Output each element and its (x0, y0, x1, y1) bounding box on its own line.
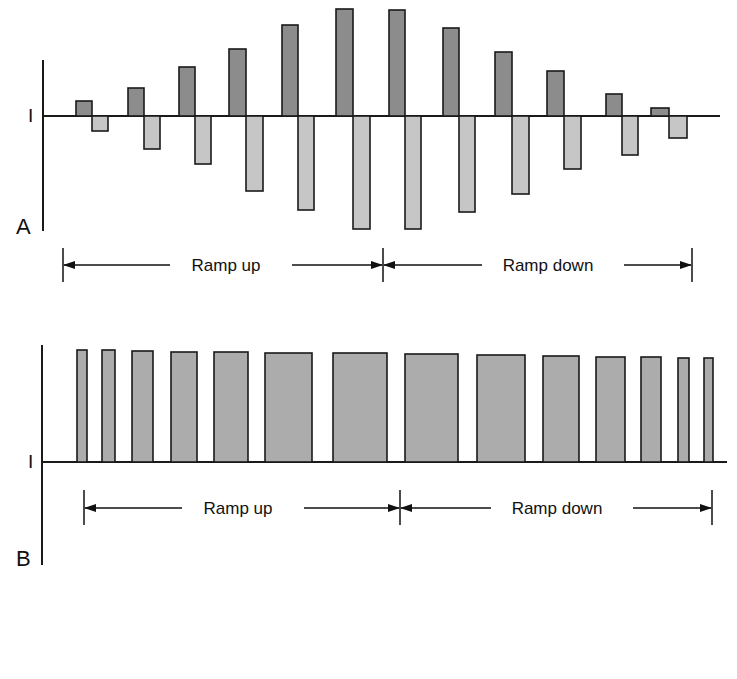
negative-phase-bar (405, 116, 421, 229)
monophasic-pulse-bar (678, 358, 689, 462)
negative-phase-bar (459, 116, 475, 212)
panel-a-pulses (76, 9, 687, 229)
negative-phase-bar (353, 116, 370, 229)
monophasic-pulse-bar (265, 353, 312, 462)
positive-phase-bar (606, 94, 622, 116)
panel-b-ramp-ranges: Ramp up Ramp down (84, 490, 712, 525)
monophasic-pulse-bar (477, 355, 525, 462)
negative-phase-bar (246, 116, 263, 191)
monophasic-pulse-bar (704, 358, 713, 462)
positive-phase-bar (179, 67, 195, 116)
monophasic-pulse-bar (171, 352, 197, 462)
positive-phase-bar (547, 71, 564, 116)
panel-a-current-label: I (28, 105, 33, 126)
positive-phase-bar (336, 9, 353, 116)
stimulation-waveform-figure: I A Ramp up Ramp down I B Ramp up Ramp d… (0, 0, 737, 679)
positive-phase-bar (495, 52, 512, 116)
positive-phase-bar (76, 101, 92, 116)
positive-phase-bar (389, 10, 405, 116)
positive-phase-bar (282, 25, 298, 116)
positive-phase-bar (651, 108, 669, 116)
panel-b-ramp-up-label: Ramp up (204, 499, 273, 518)
monophasic-pulse-bar (405, 354, 458, 462)
panel-a-biphasic-waveform: I A Ramp up Ramp down (16, 9, 720, 282)
negative-phase-bar (92, 116, 108, 131)
negative-phase-bar (298, 116, 314, 210)
monophasic-pulse-bar (333, 353, 387, 462)
panel-b-current-label: I (28, 451, 33, 472)
panel-a-ramp-up-label: Ramp up (192, 256, 261, 275)
positive-phase-bar (443, 28, 459, 116)
negative-phase-bar (669, 116, 687, 138)
positive-phase-bar (229, 49, 246, 116)
panel-b-monophasic-waveform: I B Ramp up Ramp down (16, 345, 727, 571)
negative-phase-bar (144, 116, 160, 149)
panel-a-label: A (16, 214, 31, 239)
negative-phase-bar (622, 116, 638, 155)
panel-a-ramp-ranges: Ramp up Ramp down (63, 248, 692, 282)
monophasic-pulse-bar (77, 350, 87, 462)
monophasic-pulse-bar (132, 351, 153, 462)
positive-phase-bar (128, 88, 144, 116)
monophasic-pulse-bar (214, 352, 248, 462)
negative-phase-bar (564, 116, 581, 169)
monophasic-pulse-bar (596, 357, 625, 462)
panel-b-ramp-down-label: Ramp down (512, 499, 603, 518)
monophasic-pulse-bar (102, 350, 115, 462)
negative-phase-bar (512, 116, 529, 194)
panel-b-label: B (16, 546, 31, 571)
monophasic-pulse-bar (543, 356, 579, 462)
panel-b-pulses (77, 350, 713, 462)
negative-phase-bar (195, 116, 211, 164)
panel-a-ramp-down-label: Ramp down (503, 256, 594, 275)
monophasic-pulse-bar (641, 357, 661, 462)
